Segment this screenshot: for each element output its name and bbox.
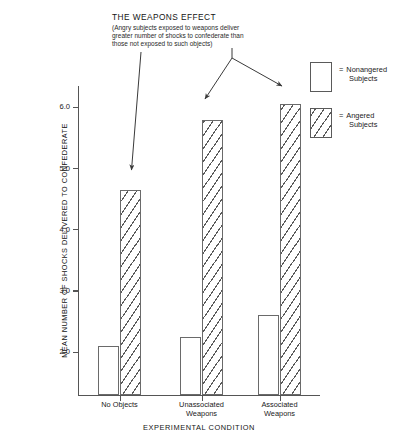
legend-label-line-1: =Nonangered — [339, 65, 387, 74]
x-axis-label-3-line-2: Weapons — [237, 409, 323, 418]
x-axis-label-1: No Objects — [77, 400, 163, 409]
figure-title: THE WEAPONS EFFECT — [112, 12, 288, 22]
y-tick-6.0 — [73, 107, 78, 108]
figure-caption: THE WEAPONS EFFECT (Angry subjects expos… — [112, 12, 288, 49]
x-axis-label-3: AssociatedWeapons — [237, 400, 323, 419]
y-axis-line — [78, 86, 79, 396]
x-axis-label-1-line-1: No Objects — [77, 400, 163, 409]
y-tick-label-4.0: 4.0 — [46, 226, 70, 234]
bar-angered-1 — [120, 190, 141, 395]
y-tick-label-3.0: 3.0 — [46, 287, 70, 295]
y-tick-2.0 — [73, 352, 78, 353]
weapons-effect-figure: THE WEAPONS EFFECT (Angry subjects expos… — [0, 0, 420, 438]
x-axis-title: EXPERIMENTAL CONDITION — [78, 423, 320, 432]
legend-equals-sign: = — [339, 111, 343, 120]
arrow-to-angered-unassociated — [205, 58, 232, 99]
y-tick-4.0 — [73, 229, 78, 230]
bar-angered-3 — [280, 104, 301, 395]
legend-label-line-1: =Angered — [339, 111, 377, 120]
caption-line-3: those not exposed to such objects) — [112, 40, 288, 48]
y-axis-title: MEAN NUMBER OF SHOCKS DELIVERED TO CONFE… — [60, 91, 69, 391]
arrow-to-angered-associated — [232, 58, 282, 86]
bar-nonangered-3 — [258, 315, 279, 395]
y-tick-label-5.0: 5.0 — [46, 165, 70, 173]
legend-item-nonangered: =NonangeredSubjects — [310, 62, 387, 92]
caption-line-2: greater number of shocks to confederate … — [112, 32, 288, 40]
bar-angered-2 — [202, 120, 223, 395]
legend-swatch-diagonal-hatch — [310, 108, 332, 138]
figure-caption-text: (Angry subjects exposed to weapons deliv… — [112, 24, 288, 49]
x-axis-label-2: UnassociatedWeapons — [159, 400, 245, 419]
x-axis-label-2-line-2: Weapons — [159, 409, 245, 418]
y-tick-3.0 — [73, 290, 78, 291]
y-tick-5.0 — [73, 168, 78, 169]
legend-label-line-2: Subjects — [339, 120, 377, 129]
y-tick-label-2.0: 2.0 — [46, 348, 70, 356]
y-tick-label-6.0: 6.0 — [46, 103, 70, 111]
legend-label: =NonangeredSubjects — [339, 62, 387, 83]
caption-line-1: (Angry subjects exposed to weapons deliv… — [112, 24, 288, 32]
x-axis-line — [78, 395, 320, 396]
legend-equals-sign: = — [339, 65, 343, 74]
legend-label-line-2: Subjects — [339, 74, 387, 83]
legend-item-angered: =AngeredSubjects — [310, 108, 377, 138]
legend-label: =AngeredSubjects — [339, 108, 377, 129]
arrow-to-angered-no-objects — [132, 52, 142, 170]
bar-nonangered-1 — [98, 346, 119, 395]
bar-nonangered-2 — [180, 337, 201, 395]
x-axis-label-2-line-1: Unassociated — [159, 400, 245, 409]
legend-swatch-solid-white — [310, 62, 332, 92]
x-axis-label-3-line-1: Associated — [237, 400, 323, 409]
